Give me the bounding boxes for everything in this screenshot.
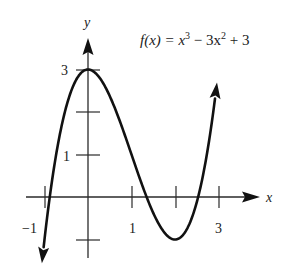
curve-right-arrow-icon (210, 83, 221, 100)
equation-part: − 3x (190, 32, 221, 48)
equation-part: f(x) = x (140, 32, 185, 48)
x-axis-label: x (265, 190, 273, 205)
function-equation: f(x) = x3 − 3x2 + 3 (140, 30, 250, 49)
y-tick-label-3: 3 (61, 63, 68, 78)
y-axis-label: y (82, 15, 91, 30)
curve-left-arrow-icon (38, 247, 49, 264)
x-tick-label-neg1: −1 (22, 221, 37, 236)
x-tick-label-3: 3 (215, 221, 222, 236)
x-tick-label-1: 1 (129, 221, 136, 236)
y-tick-label-1: 1 (63, 149, 70, 164)
equation-part: + 3 (226, 32, 249, 48)
